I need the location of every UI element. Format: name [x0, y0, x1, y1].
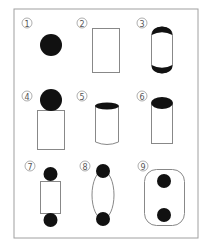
shapes-figure: 1 2 3 4 5 6 7 [0, 0, 208, 250]
upper-circle [157, 174, 171, 188]
filled-circle [40, 34, 62, 56]
bottom-circle [96, 212, 110, 226]
panel-number: 1 [25, 20, 30, 29]
bottom-circle [44, 213, 58, 227]
lower-circle [157, 208, 171, 222]
panel-number: 2 [80, 20, 85, 29]
panel-9: 9 [138, 161, 185, 226]
panel-number: 9 [141, 163, 146, 172]
panel-number: 5 [80, 93, 85, 102]
middle-ellipse [92, 171, 114, 219]
base-rectangle [38, 111, 65, 150]
panel-number: 4 [25, 93, 30, 102]
rectangle-outline [93, 29, 120, 73]
top-circle [96, 164, 110, 178]
top-circle [40, 89, 62, 111]
panel-number: 8 [83, 163, 88, 172]
capsule-body [152, 27, 173, 73]
cylinder-top [151, 97, 173, 109]
panel-number: 3 [140, 20, 145, 29]
cylinder-body [152, 104, 173, 144]
panel-number: 7 [28, 163, 33, 172]
panel-number: 6 [140, 93, 145, 102]
middle-rectangle [41, 182, 61, 214]
cylinder-top [95, 103, 119, 110]
top-circle [44, 167, 58, 181]
cylinder-body [96, 106, 119, 145]
